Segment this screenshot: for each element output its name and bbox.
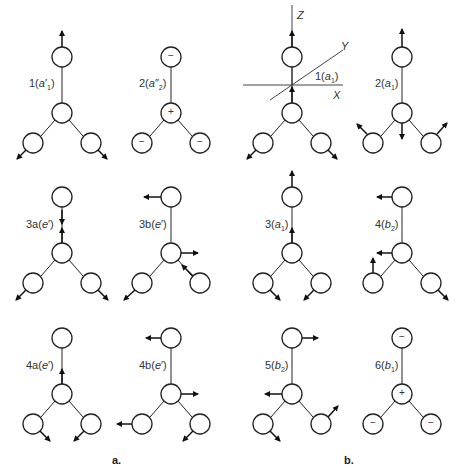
mode-label-2: 2(a″2) (139, 77, 166, 91)
molecule-9-4a-eprime (23, 328, 101, 441)
molecule-8-4-b2 (363, 187, 448, 300)
mode-label-10: 4b(e′) (139, 359, 167, 371)
molecule-6-3b-eprime (124, 187, 210, 300)
axis-y-label: Y (341, 40, 348, 52)
mode-label-4: 2(a1) (375, 77, 398, 91)
mode-label-1: 1(a′1) (29, 77, 55, 91)
panel-caption-b: b. (344, 454, 354, 466)
minus-sign: − (139, 136, 145, 147)
axis-z-label: Z (297, 9, 304, 21)
axis-x-label: X (333, 89, 340, 101)
molecule-5-3a-eprime (16, 187, 108, 300)
molecule-7-3-a1 (253, 171, 331, 300)
plus-sign: + (168, 106, 174, 117)
molecule-1-a1prime (17, 31, 107, 159)
minus-sign: − (197, 136, 203, 147)
plus-sign: + (399, 387, 405, 398)
molecule-4-a1 (357, 29, 447, 153)
mode-label-3: 1(a1) (315, 70, 338, 84)
panel-caption-a: a. (112, 454, 121, 466)
molecule-10-4b-eprime (117, 328, 210, 441)
minus-sign: − (168, 50, 174, 61)
molecule-11-5-b2 (253, 328, 338, 441)
mode-label-9: 4a(e′) (26, 359, 54, 371)
mode-label-11: 5(b2) (265, 359, 288, 373)
minus-sign: − (370, 417, 376, 428)
minus-sign: − (428, 417, 434, 428)
mode-label-6: 3b(e′) (139, 218, 167, 230)
mode-label-12: 6(b1) (375, 359, 398, 373)
vibrational-modes-diagram (0, 0, 470, 471)
mode-label-8: 4(b2) (375, 218, 398, 232)
mode-label-5: 3a(e′) (26, 218, 54, 230)
mode-label-7: 3(a1) (265, 218, 288, 232)
minus-sign: − (399, 331, 405, 342)
